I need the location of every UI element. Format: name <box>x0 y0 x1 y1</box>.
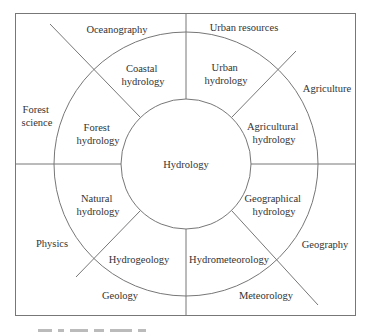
diagonal-bottom-left <box>76 211 140 277</box>
center-label: Hydrology <box>163 159 209 170</box>
outer-label-oceanography: Oceanography <box>86 24 148 35</box>
inner-label-natural: Natural hydrology <box>76 193 120 217</box>
inner-label-hydrometeorology: Hydrometeorology <box>189 254 270 265</box>
inner-label-agricultural: Agricultural hydrology <box>247 121 301 145</box>
inner-label-geographical: Geographical hydrology <box>244 193 303 217</box>
inner-label-urban: Urban hydrology <box>204 62 248 86</box>
outer-label-meteorology: Meteorology <box>239 290 294 301</box>
inner-label-forest: Forest hydrology <box>76 122 120 146</box>
outer-label-geography: Geography <box>302 239 349 250</box>
outer-label-urban-resources: Urban resources <box>210 22 279 33</box>
inner-label-coastal: Coastal hydrology <box>121 63 165 87</box>
truncated-caption <box>38 329 158 335</box>
outer-label-forest-science: Forest science <box>22 104 53 128</box>
outer-label-geology: Geology <box>102 290 139 301</box>
outer-label-physics: Physics <box>36 238 68 249</box>
outer-label-agriculture: Agriculture <box>303 83 352 94</box>
hydrology-diagram: Hydrology Coastal hydrology Urban hydrol… <box>0 0 369 335</box>
inner-label-hydrogeology: Hydrogeology <box>109 254 170 265</box>
